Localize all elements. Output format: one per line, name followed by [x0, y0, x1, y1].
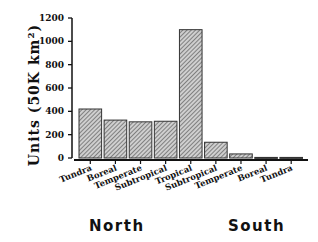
bar [280, 157, 303, 158]
y-tick-label: 200 [45, 130, 64, 140]
bar [205, 142, 228, 158]
x-axis: TundraBorealTemperateSubtropicalTropical… [58, 160, 308, 193]
bar-chart: 020040060080010001200 TundraBorealTemper… [0, 0, 318, 242]
y-tick-label: 1000 [39, 36, 64, 46]
y-tick-label: 800 [45, 60, 64, 70]
bar [230, 154, 253, 158]
y-tick-label: 1200 [39, 13, 64, 23]
bars [79, 30, 303, 159]
y-tick-label: 600 [45, 83, 64, 93]
group-label-south: South [228, 217, 285, 235]
bar [79, 109, 102, 158]
y-tick-label: 0 [58, 153, 64, 163]
bar [104, 120, 127, 158]
y-axis-label: Units (50K km²) [26, 24, 42, 166]
bar [154, 121, 177, 158]
bar [129, 122, 152, 158]
y-axis: 020040060080010001200 [39, 13, 72, 163]
group-label-north: North [89, 217, 145, 235]
y-tick-label: 400 [45, 106, 64, 116]
bar [179, 30, 202, 158]
bar [255, 157, 278, 158]
